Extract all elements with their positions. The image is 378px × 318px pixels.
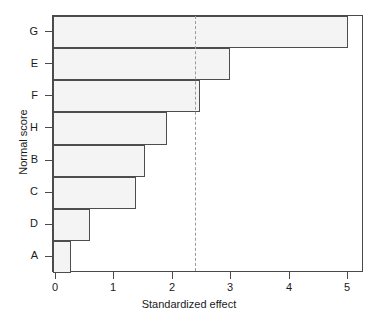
x-tick-label-5: 5 xyxy=(332,281,362,293)
bar-d xyxy=(53,209,90,241)
x-tick-label-1: 1 xyxy=(98,281,128,293)
y-tick-label-d: D xyxy=(10,218,38,229)
x-tick-label-3: 3 xyxy=(215,281,245,293)
y-tick-g xyxy=(45,31,52,32)
x-tick-label-4: 4 xyxy=(274,281,304,293)
x-tick-label-2: 2 xyxy=(157,281,187,293)
y-tick-d xyxy=(45,224,52,225)
x-tick-2 xyxy=(172,272,173,279)
x-tick-0 xyxy=(55,272,56,279)
x-tick-5 xyxy=(347,272,348,279)
y-tick-b xyxy=(45,160,52,161)
y-tick-label-e: E xyxy=(10,58,38,69)
x-tick-3 xyxy=(230,272,231,279)
y-tick-f xyxy=(45,95,52,96)
y-tick-c xyxy=(45,192,52,193)
significance-threshold-line xyxy=(195,16,196,271)
bar-e xyxy=(53,48,230,80)
plot-area xyxy=(52,15,363,272)
bar-g xyxy=(53,16,348,48)
bar-a xyxy=(53,241,71,273)
y-tick-a xyxy=(45,256,52,257)
x-tick-4 xyxy=(289,272,290,279)
y-tick-h xyxy=(45,127,52,128)
bar-h xyxy=(53,112,167,145)
bar-f xyxy=(53,80,200,112)
y-axis-title: Normal score xyxy=(17,72,29,212)
x-axis-title: Standardized effect xyxy=(0,298,378,310)
bar-b xyxy=(53,145,145,177)
bars-layer xyxy=(53,16,362,271)
x-tick-1 xyxy=(113,272,114,279)
y-tick-label-g: G xyxy=(10,26,38,37)
pareto-chart: GEFHBCDA 012345 Standardized effect Norm… xyxy=(0,0,378,318)
bar-c xyxy=(53,177,136,209)
y-tick-e xyxy=(45,63,52,64)
y-tick-label-a: A xyxy=(10,250,38,261)
x-tick-label-0: 0 xyxy=(40,281,70,293)
